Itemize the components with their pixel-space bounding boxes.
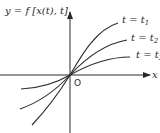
curve-t1 bbox=[32, 23, 118, 125]
origin-label: O bbox=[74, 79, 81, 88]
x-axis-label: x bbox=[152, 70, 158, 80]
y-axis-label: y = f [x(t), t] bbox=[5, 6, 68, 16]
function-family-diagram: y = f [x(t), t] x O t = t1 t = t2 t = t3 bbox=[0, 0, 160, 133]
curve-label-t3: t = t3 bbox=[136, 50, 160, 62]
curve-label-t1: t = t1 bbox=[122, 15, 149, 27]
curve-label-t2: t = t2 bbox=[131, 33, 158, 45]
